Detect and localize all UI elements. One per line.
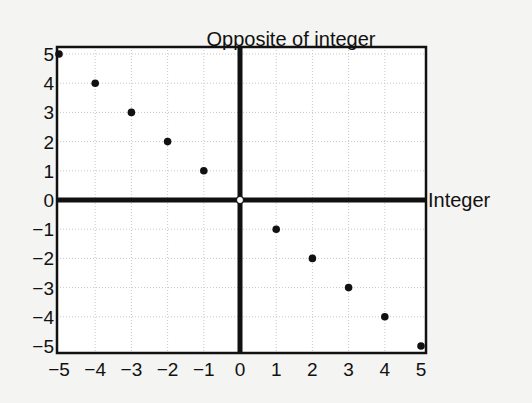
data-point-marker (309, 255, 317, 263)
y-tick-label: 4 (43, 73, 54, 94)
y-tick-label: 3 (43, 102, 54, 123)
y-tick-label: −5 (32, 336, 54, 357)
y-tick-label: −4 (32, 307, 54, 328)
data-point-marker (91, 79, 99, 87)
x-tick-label: 2 (307, 359, 318, 380)
x-tick-label: −4 (84, 359, 106, 380)
x-tick-label: 3 (343, 359, 354, 380)
data-point-marker (128, 109, 136, 117)
data-point-marker (345, 284, 353, 292)
y-tick-label: −1 (32, 219, 54, 240)
data-point-marker (164, 138, 172, 146)
y-tick-label: −2 (32, 248, 54, 269)
data-point-marker (55, 50, 63, 58)
data-point-marker (381, 313, 389, 321)
x-tick-label: 5 (416, 359, 427, 380)
chart-title: Opposite of integer (207, 28, 376, 50)
x-tick-label: −5 (48, 359, 70, 380)
y-tick-labels: −5−4−3−2−1012345 (32, 44, 54, 357)
scatter-chart: −5−4−3−2−1012345 −5−4−3−2−1012345 Opposi… (0, 0, 532, 403)
y-tick-label: 2 (43, 132, 54, 153)
x-tick-label: −2 (157, 359, 179, 380)
y-tick-label: 5 (43, 44, 54, 65)
data-point-marker (272, 225, 280, 233)
x-tick-label: 4 (380, 359, 391, 380)
x-tick-label: −3 (121, 359, 143, 380)
data-point-marker (417, 342, 425, 350)
x-tick-label: 1 (271, 359, 282, 380)
y-tick-label: 0 (43, 190, 54, 211)
data-point-marker (200, 167, 208, 175)
x-tick-label: 0 (235, 359, 246, 380)
y-tick-label: 1 (43, 161, 54, 182)
x-tick-labels: −5−4−3−2−1012345 (48, 359, 426, 380)
x-axis-label: Integer (428, 189, 491, 211)
origin-open-marker (237, 197, 244, 204)
x-tick-label: −1 (193, 359, 215, 380)
y-tick-label: −3 (32, 278, 54, 299)
